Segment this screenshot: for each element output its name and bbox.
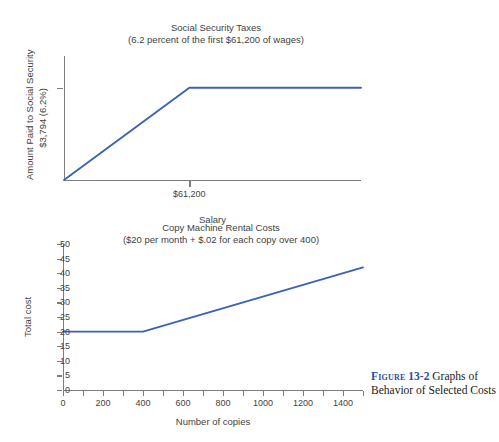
y-axis-label-copy-machine: Total cost xyxy=(22,244,35,390)
y-axis-tick xyxy=(57,88,63,89)
x-axis-line xyxy=(64,180,361,181)
x-axis-tick-label: $61,200 xyxy=(173,189,206,199)
y-axis-label-line: $3,794 (6.2%) xyxy=(37,56,50,180)
x-axis-tick-label: 1400 xyxy=(333,398,353,408)
chart-subtitle-line: (6.2 percent of the first $61,200 of wag… xyxy=(88,34,344,46)
y-axis-tick-label: 25 xyxy=(52,312,70,322)
y-axis-tick-label: 0 xyxy=(52,385,70,395)
x-axis-tick xyxy=(263,391,264,396)
x-axis-tick xyxy=(243,391,244,396)
chart-title-line: Social Security Taxes xyxy=(88,22,344,34)
x-axis-tick-label: 1200 xyxy=(293,398,313,408)
x-axis-tick xyxy=(143,391,144,396)
y-axis-tick-label: 50 xyxy=(52,239,70,249)
x-axis-tick xyxy=(189,181,190,187)
x-axis-tick xyxy=(343,391,344,396)
x-axis-tick-label: 600 xyxy=(175,398,190,408)
x-axis-tick xyxy=(163,391,164,396)
series-polyline xyxy=(63,267,363,331)
chart-title-copy-machine: Copy Machine Rental Costs ($20 per month… xyxy=(96,222,346,246)
x-axis-tick-label: 200 xyxy=(95,398,110,408)
x-axis-tick xyxy=(283,391,284,396)
series-line-social-security xyxy=(64,56,361,180)
x-axis-tick xyxy=(103,391,104,396)
x-axis-tick xyxy=(83,391,84,396)
plot-area-social-security: $61,200 xyxy=(64,56,361,180)
y-axis-label-social-security: Amount Paid to Social Security $3,794 (6… xyxy=(24,56,49,180)
x-axis-tick xyxy=(223,391,224,396)
y-axis-tick-label: 35 xyxy=(52,283,70,293)
figure-caption: Figure 13-2 Graphs of Behavior of Select… xyxy=(371,369,499,397)
y-axis-tick-label: 40 xyxy=(52,268,70,278)
y-axis-tick-label: 10 xyxy=(52,356,70,366)
figure-label: Figure xyxy=(371,370,405,382)
x-axis-tick xyxy=(123,391,124,396)
y-axis-tick-label: 45 xyxy=(52,254,70,264)
x-axis-tick xyxy=(323,391,324,396)
x-axis-tick xyxy=(183,391,184,396)
y-axis-tick-label: 20 xyxy=(52,327,70,337)
figure-page: Social Security Taxes (6.2 percent of th… xyxy=(0,0,499,442)
x-axis-tick-label: 1000 xyxy=(253,398,273,408)
x-axis-line xyxy=(63,390,363,391)
series-line-copy-machine xyxy=(63,244,363,390)
chart-social-security: Social Security Taxes (6.2 percent of th… xyxy=(0,0,380,210)
x-axis-tick-label: 400 xyxy=(135,398,150,408)
chart-copy-machine: Copy Machine Rental Costs ($20 per month… xyxy=(0,210,380,442)
figure-number: 13-2 xyxy=(408,370,429,382)
y-axis-label-line: Amount Paid to Social Security xyxy=(24,56,37,180)
x-axis-tick-label: 800 xyxy=(215,398,230,408)
x-axis-tick xyxy=(303,391,304,396)
y-axis-tick-label: 5 xyxy=(52,370,70,380)
x-axis-tick xyxy=(203,391,204,396)
chart-title-line: Copy Machine Rental Costs xyxy=(96,222,346,234)
x-axis-tick xyxy=(363,391,364,396)
y-axis-tick-label: 15 xyxy=(52,341,70,351)
y-axis-label-line: Total cost xyxy=(22,244,35,390)
plot-area-copy-machine: 0200400600800100012001400051015202530354… xyxy=(63,244,363,390)
chart-title-social-security: Social Security Taxes (6.2 percent of th… xyxy=(88,22,344,46)
x-axis-tick-label: 0 xyxy=(60,398,65,408)
series-polyline xyxy=(64,88,361,180)
y-axis-tick-label: 30 xyxy=(52,297,70,307)
x-axis-label-copy-machine: Number of copies xyxy=(176,416,250,427)
